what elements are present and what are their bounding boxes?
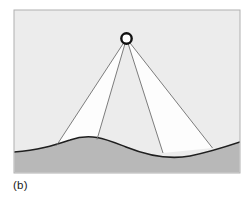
visibility-diagram <box>0 0 252 203</box>
panel-caption: (b) <box>13 178 28 192</box>
light-source-marker <box>121 33 131 43</box>
figure-panel: (b) <box>0 0 252 203</box>
